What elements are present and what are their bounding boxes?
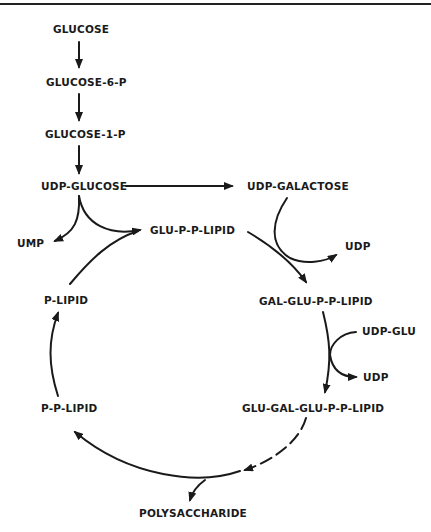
- node-udp-glu: UDP-GLU: [362, 325, 416, 337]
- arrow-to-polysaccharide: [190, 480, 205, 500]
- node-glucose-6-p: GLUCOSE-6-P: [46, 76, 127, 88]
- node-udp-2: UDP: [363, 371, 389, 383]
- arrow-udpglu-to-udp: [330, 332, 356, 377]
- node-polysaccharide: POLYSACCHARIDE: [139, 507, 247, 519]
- node-glucose: GLUCOSE: [53, 23, 109, 35]
- node-glu-p-p-lipid: GLU-P-P-LIPID: [150, 224, 235, 236]
- node-glucose-1-p: GLUCOSE-1-P: [45, 128, 126, 140]
- arrow-udpgalactose-to-udp: [275, 198, 336, 262]
- node-udp-galactose: UDP-GALACTOSE: [247, 180, 349, 192]
- arrow-ppl-to-plipid: [51, 313, 59, 396]
- node-p-lipid: P-LIPID: [44, 294, 88, 306]
- arrow-to-glu-p-p-lipid: [79, 196, 140, 232]
- node-udp-glucose: UDP-GLUCOSE: [41, 180, 127, 192]
- node-p-p-lipid: P-P-LIPID: [41, 402, 97, 414]
- arrow-to-gal-glu-p-p-lipid: [248, 232, 306, 282]
- node-ump: UMP: [17, 237, 44, 249]
- node-udp-1: UDP: [345, 240, 371, 252]
- arrow-to-ump: [55, 196, 79, 241]
- node-gal-glu-p-p-lipid: GAL-GLU-P-P-LIPID: [259, 295, 373, 307]
- arrow-to-glu-gal-glu: [323, 312, 329, 392]
- arrow-to-p-p-lipid: [75, 432, 240, 477]
- node-glu-gal-glu-p-p-lipid: GLU-GAL-GLU-P-P-LIPID: [242, 402, 384, 414]
- arrow-dashed-to-polysaccharide: [245, 418, 306, 470]
